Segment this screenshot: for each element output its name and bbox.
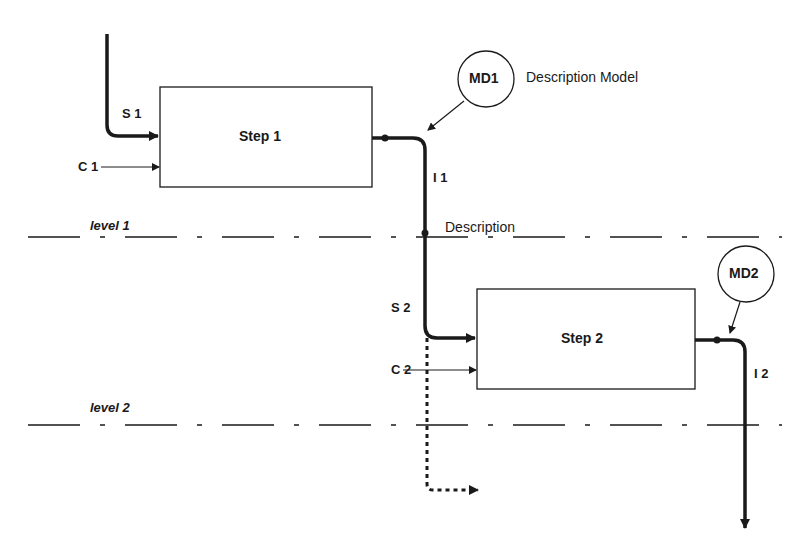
step-2-label: Step 2 [561,330,603,346]
i2-node [714,337,721,344]
level1-node [422,230,429,237]
level-1-caption: Description [445,219,515,235]
level-2-label: level 2 [90,400,130,415]
c2-label: C 2 [391,362,411,377]
dashed-feedback-flow [427,338,478,490]
diagram-canvas [0,0,806,549]
s1-label: S 1 [122,106,142,121]
level-1-label: level 1 [90,218,130,233]
md2-pointer [730,302,740,333]
md1-caption: Description Model [526,69,638,85]
i2-flow [695,340,745,528]
step-1-label: Step 1 [239,128,281,144]
md2-label: MD2 [729,265,759,281]
c1-label: C 1 [78,159,98,174]
i1-label: I 1 [433,170,447,185]
i2-label: I 2 [754,366,768,381]
i1-node [382,135,389,142]
md1-pointer [428,101,464,130]
md1-label: MD1 [469,70,499,86]
s2-label: S 2 [391,300,411,315]
i1-s2-flow [372,138,475,338]
